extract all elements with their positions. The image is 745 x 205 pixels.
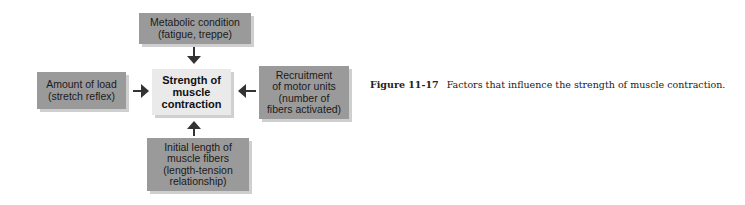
box-line: (stretch reflex): [46, 91, 117, 103]
arrow-up-icon: [187, 121, 201, 136]
factor-box-recruitment: Recruitment of motor units (number of fi…: [259, 66, 349, 119]
factor-box-metabolic-condition: Metabolic condition (fatigue, treppe): [139, 13, 251, 44]
figure-caption-text: Factors that influence the strength of m…: [447, 79, 726, 90]
center-box-strength-of-contraction: Strength of muscle contraction: [152, 69, 231, 115]
figure-label: Figure 11-17: [370, 79, 439, 90]
arrow-left-icon: [238, 84, 256, 98]
arrow-down-icon: [187, 47, 201, 64]
box-line: of motor units: [267, 81, 341, 93]
factor-box-initial-length: Initial length of muscle fibers (length-…: [147, 138, 249, 191]
box-line: Strength of: [162, 74, 222, 86]
box-line: relationship): [163, 176, 232, 188]
box-line: (fatigue, treppe): [150, 29, 240, 41]
box-line: muscle: [162, 86, 222, 98]
box-line: fibers activated): [267, 104, 341, 116]
box-line: contraction: [162, 98, 222, 110]
box-line: muscle fibers: [163, 153, 232, 165]
arrow-right-icon: [133, 84, 149, 98]
factor-box-amount-of-load: Amount of load (stretch reflex): [37, 72, 126, 109]
figure-caption: Figure 11-17Factors that influence the s…: [370, 79, 725, 90]
box-line: Amount of load: [46, 79, 117, 91]
box-line: Metabolic condition: [150, 17, 240, 29]
